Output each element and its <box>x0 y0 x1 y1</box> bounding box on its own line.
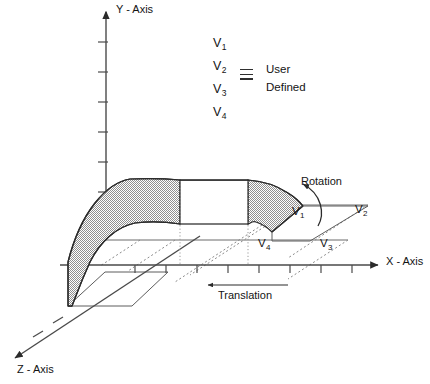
z-axis-label: Z - Axis <box>17 364 54 375</box>
profile-vertex-3-sub: 3 <box>328 243 332 252</box>
legend-vertex-2: V2 <box>213 60 226 73</box>
profile-vertex-1: V1 <box>292 206 304 218</box>
receding-line-c <box>288 240 348 279</box>
z-axis-group <box>15 236 200 358</box>
profile-vertex-2: V2 <box>355 204 367 216</box>
z-axis-tick-1 <box>53 317 63 323</box>
profile-vertex-3-base: V <box>320 237 328 249</box>
identical-to-bar-2 <box>240 74 253 75</box>
legend-vertex-4-sub: 4 <box>222 111 227 121</box>
profile-vertex-2-sub: 2 <box>363 209 367 218</box>
legend-vertex-3-base: V <box>213 82 221 96</box>
legend-vertex-3: V3 <box>213 83 226 96</box>
profile-vertex-2-base: V <box>355 203 363 215</box>
receding-line-a <box>175 225 262 282</box>
legend-vertex-2-base: V <box>213 59 221 73</box>
profile-vertex-3: V3 <box>320 238 332 250</box>
translation-label: Translation <box>218 290 272 301</box>
legend-vertex-2-sub: 2 <box>222 65 227 75</box>
legend-vertex-1-base: V <box>213 36 221 50</box>
y-axis-label: Y - Axis <box>116 4 153 15</box>
legend-vertex-4: V4 <box>213 106 226 119</box>
legend-text-user: User <box>266 64 290 76</box>
identical-to-bar-3 <box>240 78 253 79</box>
profile-vertex-4-sub: 4 <box>266 243 270 252</box>
diagram-canvas: Y - Axis X - Axis Z - Axis V1 V2 V3 V4 U… <box>0 0 430 384</box>
z-axis-tick-2 <box>33 331 43 337</box>
legend-vertex-1-sub: 1 <box>222 42 227 52</box>
legend-text-defined: Defined <box>266 82 306 94</box>
profile-vertex-1-base: V <box>292 205 300 217</box>
profile-vertex-4-base: V <box>258 237 266 249</box>
identical-to-icon <box>240 69 253 80</box>
legend-vertex-4-base: V <box>213 105 221 119</box>
z-axis-line <box>15 236 200 358</box>
x-axis-label: X - Axis <box>386 256 423 267</box>
legend-vertex-1: V1 <box>213 37 226 50</box>
profile-vertex-4: V4 <box>258 238 270 250</box>
legend-vertex-3-sub: 3 <box>222 88 227 98</box>
diagram-vector-scene <box>0 0 430 384</box>
cross-section-panel <box>180 180 248 224</box>
identical-to-bar-1 <box>240 69 253 70</box>
profile-vertex-1-sub: 1 <box>300 211 304 220</box>
receding-line-e <box>100 240 140 266</box>
rotation-label: Rotation <box>301 176 342 187</box>
